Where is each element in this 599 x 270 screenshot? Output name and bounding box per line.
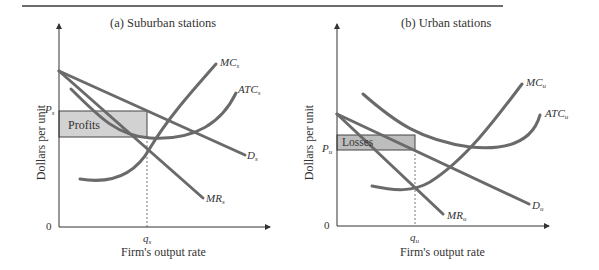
panel-a-xlabel: Firm's output rate — [121, 245, 206, 260]
mc-u-label: MCu — [526, 76, 546, 90]
panel-b-xlabel: Firm's output rate — [400, 245, 485, 260]
d-u-label: Du — [532, 199, 543, 213]
diagram-canvas — [0, 0, 599, 270]
panel-a-title: (a) Suburban stations — [110, 16, 216, 31]
mr-curve-u — [337, 114, 443, 214]
atc-s-label: ATCs — [238, 83, 261, 97]
panel-b — [337, 24, 549, 226]
losses-label: Losses — [342, 136, 373, 148]
atc-u-label: ATCu — [545, 107, 568, 121]
panel-b-price-label: Pu — [322, 142, 332, 156]
profits-label: Profits — [68, 118, 100, 133]
panel-a-origin: 0 — [46, 220, 52, 232]
panel-b-origin: 0 — [324, 219, 330, 231]
panel-a-price-label: Ps — [45, 103, 54, 117]
panel-a-qty-label: qs — [143, 232, 151, 246]
panel-b-title: (b) Urban stations — [401, 16, 491, 31]
panel-b-ylabel: Dollars per unit — [302, 98, 317, 188]
demand-curve-du — [337, 114, 529, 204]
panel-b-qty-label: qu — [410, 231, 419, 245]
mr-s-label: MRs — [206, 192, 225, 206]
d-s-label: Ds — [247, 149, 258, 163]
mr-u-label: MRu — [447, 209, 466, 223]
mc-s-label: MCs — [220, 56, 239, 70]
